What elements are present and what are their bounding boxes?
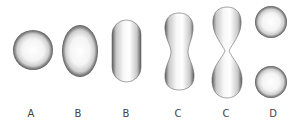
cell-stage-b-capsule (112, 20, 141, 82)
stage-label-a: A (28, 108, 35, 119)
stage-label-d: D (269, 108, 277, 119)
stage-label-c2: C (223, 108, 230, 119)
cell-division-diagram (0, 0, 303, 126)
stage-label-b2: B (123, 108, 130, 119)
stage-label-c1: C (175, 108, 182, 119)
daughter-cell-top (255, 6, 287, 38)
cell-stage-c-figure-eight (212, 7, 242, 98)
cell-stage-d (255, 6, 287, 98)
cell-stage-a (13, 30, 53, 70)
daughter-cell-bottom (255, 66, 287, 98)
cell-stage-b-ellipse (62, 25, 98, 77)
cell-stage-c-dumbbell (165, 13, 194, 90)
stage-label-b1: B (75, 108, 82, 119)
